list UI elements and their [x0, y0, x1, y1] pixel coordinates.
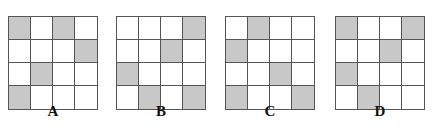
grid-4x4: [225, 16, 315, 110]
empty-cell: [183, 63, 205, 86]
empty-cell: [248, 63, 270, 86]
empty-cell: [161, 17, 183, 40]
empty-cell: [292, 40, 314, 63]
option-c[interactable]: [225, 16, 315, 110]
empty-cell: [9, 40, 31, 63]
shaded-cell: [248, 17, 270, 40]
shaded-cell: [9, 17, 31, 40]
option-label: B: [116, 103, 206, 120]
empty-cell: [358, 17, 380, 40]
shaded-cell: [161, 40, 183, 63]
empty-cell: [9, 63, 31, 86]
empty-cell: [402, 63, 424, 86]
empty-cell: [380, 17, 402, 40]
shaded-cell: [226, 40, 248, 63]
empty-cell: [117, 17, 139, 40]
empty-cell: [117, 40, 139, 63]
empty-cell: [336, 40, 358, 63]
grid-4x4: [116, 16, 206, 110]
empty-cell: [139, 63, 161, 86]
option-b[interactable]: [116, 16, 206, 110]
shaded-cell: [117, 63, 139, 86]
empty-cell: [358, 40, 380, 63]
grid-4x4: [335, 16, 425, 110]
empty-cell: [53, 40, 75, 63]
empty-cell: [358, 63, 380, 86]
empty-cell: [380, 63, 402, 86]
shaded-cell: [402, 17, 424, 40]
empty-cell: [226, 63, 248, 86]
shaded-cell: [75, 40, 97, 63]
shaded-cell: [336, 17, 358, 40]
empty-cell: [292, 17, 314, 40]
empty-cell: [139, 40, 161, 63]
empty-cell: [75, 63, 97, 86]
grid-4x4: [8, 16, 98, 110]
empty-cell: [226, 17, 248, 40]
empty-cell: [402, 40, 424, 63]
option-label: A: [8, 103, 98, 120]
option-d[interactable]: [335, 16, 425, 110]
empty-cell: [270, 17, 292, 40]
option-a[interactable]: [8, 16, 98, 110]
empty-cell: [292, 63, 314, 86]
shaded-cell: [183, 17, 205, 40]
option-label: D: [335, 103, 425, 120]
empty-cell: [75, 17, 97, 40]
empty-cell: [161, 63, 183, 86]
empty-cell: [31, 17, 53, 40]
option-label: C: [225, 103, 315, 120]
shaded-cell: [270, 63, 292, 86]
empty-cell: [31, 40, 53, 63]
shaded-cell: [380, 40, 402, 63]
shaded-cell: [53, 17, 75, 40]
empty-cell: [53, 63, 75, 86]
empty-cell: [183, 40, 205, 63]
empty-cell: [139, 17, 161, 40]
shaded-cell: [31, 63, 53, 86]
empty-cell: [270, 40, 292, 63]
shaded-cell: [336, 63, 358, 86]
empty-cell: [248, 40, 270, 63]
